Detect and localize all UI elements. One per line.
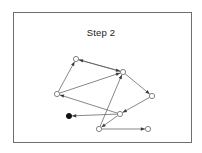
graph-edge bbox=[100, 75, 122, 127]
edge-arrowhead bbox=[72, 114, 76, 117]
graph-node bbox=[96, 126, 101, 131]
arrowheads-layer bbox=[60, 59, 150, 130]
edge-arrowhead bbox=[116, 68, 121, 71]
graph-node bbox=[145, 126, 150, 131]
graph-edge bbox=[59, 73, 120, 93]
graph-edge bbox=[58, 62, 74, 92]
graph-edge bbox=[79, 60, 121, 72]
graph-node bbox=[149, 93, 154, 98]
figure-canvas: Step 2 bbox=[0, 0, 202, 153]
graph-edge bbox=[60, 95, 118, 113]
edge-arrowhead bbox=[71, 62, 74, 67]
edge-arrowhead bbox=[79, 59, 84, 62]
edge-arrowhead bbox=[141, 127, 145, 130]
graph-node bbox=[54, 91, 59, 96]
edge-arrowhead bbox=[116, 73, 121, 76]
graph-node-filled bbox=[66, 113, 71, 118]
graph-node bbox=[73, 56, 78, 61]
graph-edge bbox=[123, 97, 150, 112]
nodes-layer bbox=[54, 56, 154, 131]
graph-node bbox=[117, 111, 122, 116]
edges-layer bbox=[58, 60, 149, 129]
edge-arrowhead bbox=[101, 123, 105, 127]
edge-arrowhead bbox=[123, 109, 127, 113]
edge-arrowhead bbox=[119, 75, 122, 80]
graph-plot bbox=[0, 0, 202, 153]
graph-node bbox=[120, 69, 125, 74]
edge-arrowhead bbox=[60, 95, 65, 98]
graph-edge bbox=[125, 74, 150, 94]
graph-edge bbox=[72, 114, 117, 116]
